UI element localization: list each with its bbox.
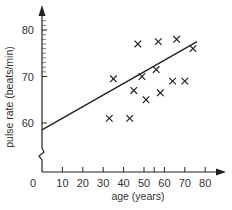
data-point-x-marker-icon — [106, 115, 113, 122]
x-tick-label: 70 — [179, 177, 191, 189]
y-tick-label: 70 — [22, 71, 34, 83]
data-point-x-marker-icon — [139, 73, 146, 80]
data-point-x-marker-icon — [157, 89, 164, 96]
data-point-x-marker-icon — [153, 66, 160, 73]
x-tick-label: 30 — [97, 177, 109, 189]
y-tick-label: 80 — [22, 24, 34, 36]
data-point-x-marker-icon — [126, 115, 133, 122]
regression-line — [42, 42, 197, 130]
y-axis-arrow-icon — [39, 5, 46, 16]
trend-line — [42, 42, 197, 130]
data-point-x-marker-icon — [169, 78, 176, 85]
x-tick-label: 20 — [77, 177, 89, 189]
x-tick-label: 40 — [117, 177, 129, 189]
y-axis-line — [39, 12, 44, 172]
x-axis: 01020304050607080 — [30, 167, 226, 189]
y-axis-label: pulse rate (beats/min) — [3, 46, 15, 148]
scatter-chart: 607080 01020304050607080 age (years) pul… — [0, 0, 232, 210]
data-point-x-marker-icon — [190, 45, 197, 52]
y-axis: 607080 — [22, 5, 47, 172]
x-tick-label: 10 — [56, 177, 68, 189]
data-point-x-marker-icon — [173, 36, 180, 43]
x-tick-label: 50 — [138, 177, 150, 189]
data-point-x-marker-icon — [182, 78, 189, 85]
x-tick-label: 0 — [30, 177, 36, 189]
data-points — [106, 36, 196, 122]
data-point-x-marker-icon — [143, 96, 150, 103]
x-tick-label: 60 — [158, 177, 170, 189]
data-point-x-marker-icon — [110, 76, 117, 83]
data-point-x-marker-icon — [135, 41, 142, 48]
y-tick-label: 60 — [22, 117, 34, 129]
data-point-x-marker-icon — [131, 87, 138, 94]
x-axis-label: age (years) — [111, 190, 164, 202]
x-axis-arrow-icon — [216, 169, 226, 176]
x-tick-label: 80 — [199, 177, 211, 189]
data-point-x-marker-icon — [155, 38, 162, 45]
